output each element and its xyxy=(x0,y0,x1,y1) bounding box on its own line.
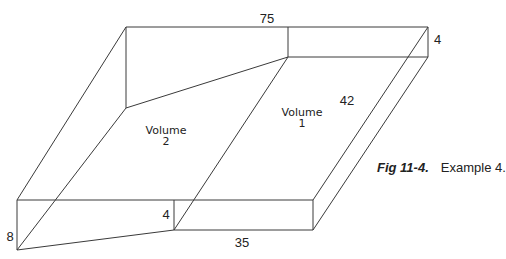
figure-title: Example 4. xyxy=(441,160,506,175)
dimension-length-top: 75 xyxy=(260,11,274,26)
volume-2-number: 2 xyxy=(163,135,170,148)
diagram-edges xyxy=(17,27,428,250)
dimension-height-left: 8 xyxy=(6,229,13,244)
dimension-height-middle: 4 xyxy=(162,207,169,222)
volume-diagram: 75 4 42 8 4 35 Volume 1 Volume 2 xyxy=(0,0,506,259)
figure-caption: Fig 11-4.Example 4. xyxy=(377,160,506,175)
figure-number: Fig 11-4. xyxy=(377,160,429,175)
dimension-length-bottom: 35 xyxy=(235,235,249,250)
volume-1-number: 1 xyxy=(299,117,306,130)
dimension-depth: 42 xyxy=(340,93,354,108)
dimension-height-right: 4 xyxy=(434,32,441,47)
